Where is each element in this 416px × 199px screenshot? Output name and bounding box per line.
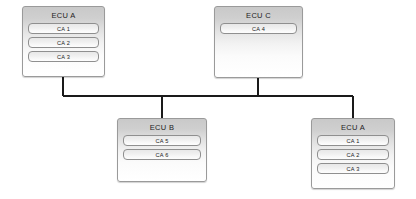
- ecu-node-c[interactable]: ECU C CA 4: [214, 6, 303, 78]
- ca-item[interactable]: CA 1: [28, 23, 99, 34]
- ca-list: CA 4: [215, 23, 302, 39]
- ca-item[interactable]: CA 3: [28, 51, 99, 62]
- ca-list: CA 1 CA 2 CA 3: [312, 135, 394, 179]
- ecu-title: ECU B: [118, 119, 206, 135]
- ca-list: CA 5 CA 6: [118, 135, 206, 165]
- ca-item[interactable]: CA 6: [123, 149, 201, 160]
- ecu-node-b[interactable]: ECU B CA 5 CA 6: [117, 118, 207, 182]
- ecu-node-a-bottom-right[interactable]: ECU A CA 1 CA 2 CA 3: [311, 118, 395, 189]
- ca-item[interactable]: CA 2: [28, 37, 99, 48]
- ca-list: CA 1 CA 2 CA 3: [23, 23, 104, 67]
- ca-item[interactable]: CA 2: [317, 149, 389, 160]
- ecu-node-a-top-left[interactable]: ECU A CA 1 CA 2 CA 3: [22, 6, 105, 77]
- ecu-title: ECU A: [312, 119, 394, 135]
- ecu-title: ECU A: [23, 7, 104, 23]
- ca-item[interactable]: CA 4: [220, 23, 297, 34]
- ca-item[interactable]: CA 5: [123, 135, 201, 146]
- ca-item[interactable]: CA 1: [317, 135, 389, 146]
- ca-item[interactable]: CA 3: [317, 163, 389, 174]
- ecu-title: ECU C: [215, 7, 302, 23]
- diagram-canvas: ECU A CA 1 CA 2 CA 3 ECU C CA 4 ECU B CA…: [0, 0, 416, 199]
